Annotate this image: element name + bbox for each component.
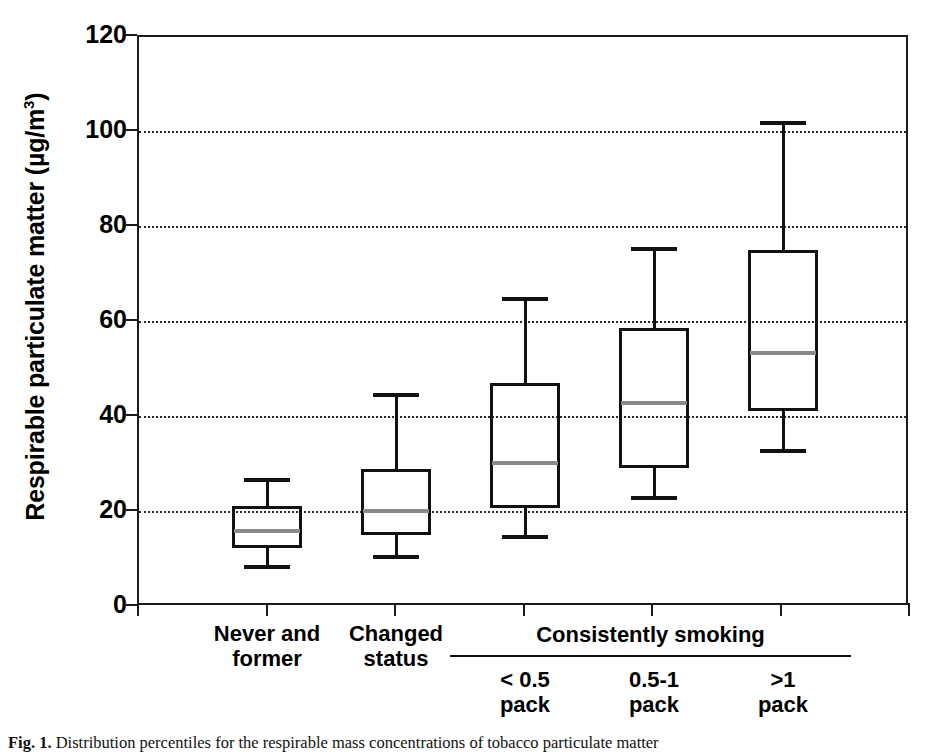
- boxplot-5-lower-whisker-stem: [782, 411, 785, 449]
- boxplot-5-upper-whisker-cap: [760, 121, 806, 125]
- boxplot-5-upper-whisker-stem: [782, 121, 785, 249]
- boxplot-5-median-line: [750, 351, 816, 355]
- figure-boxplot-respirable-particulate-matter: Respirable particulate matter (µg/m3) 12…: [0, 0, 938, 755]
- boxplot-5: [0, 0, 938, 755]
- boxplot-5-iqr-box: [748, 250, 818, 412]
- boxplot-5-lower-whisker-cap: [760, 449, 806, 453]
